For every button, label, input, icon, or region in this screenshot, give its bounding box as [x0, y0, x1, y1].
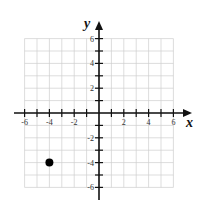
coordinate-plane: -6-4-2246 642-2-4-6 x y [0, 0, 204, 209]
x-tick-label: -6 [21, 118, 28, 127]
y-axis-arrow-icon [95, 21, 103, 30]
x-axis-label: x [185, 115, 193, 130]
y-tick-label: 4 [90, 59, 94, 68]
x-tick-label: 6 [171, 118, 175, 127]
data-point [45, 159, 53, 167]
x-axis [14, 109, 192, 117]
y-tick-label: -6 [87, 183, 94, 192]
x-tick-label: -4 [46, 118, 53, 127]
y-axis-label: y [82, 16, 91, 31]
x-tick-label: 4 [147, 118, 151, 127]
y-axis [95, 21, 103, 200]
y-tick-label: -2 [87, 134, 94, 143]
x-tick-label: 2 [122, 118, 126, 127]
y-tick-label: 2 [90, 84, 94, 93]
y-tick-label: -4 [87, 159, 94, 168]
y-tick-label: 6 [90, 35, 94, 44]
x-tick-label: -2 [71, 118, 78, 127]
